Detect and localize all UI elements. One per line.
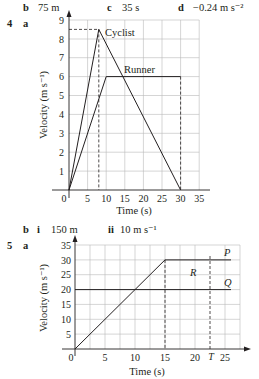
p-label: P [223, 247, 231, 258]
svg-text:T: T [208, 351, 215, 362]
chart2-dashed-lines [165, 256, 210, 349]
svg-text:25: 25 [61, 269, 71, 280]
q-label: Q [224, 277, 232, 288]
svg-text:10: 10 [130, 352, 140, 363]
chart2-x-arrow-icon [244, 347, 251, 352]
svg-text:25: 25 [220, 352, 230, 363]
svg-text:5: 5 [66, 329, 71, 340]
svg-text:20: 20 [190, 352, 200, 363]
chart2-y-arrow-icon [73, 235, 78, 242]
svg-text:5: 5 [103, 352, 108, 363]
chart-p-q: 35 30 25 20 15 10 5 0 5 10 15 20 25 T Ti… [0, 0, 259, 379]
svg-text:0: 0 [69, 352, 74, 363]
chart2-axes [62, 240, 244, 356]
chart2-grid [75, 245, 240, 349]
chart2-y-ticks: 35 30 25 20 15 10 5 [61, 240, 71, 340]
svg-text:20: 20 [61, 284, 71, 295]
svg-text:35: 35 [61, 240, 71, 251]
chart2-y-label: Velocity (m s⁻¹) [38, 263, 50, 332]
svg-text:10: 10 [61, 314, 71, 325]
svg-text:15: 15 [61, 299, 71, 310]
chart2-x-ticks: 0 5 10 15 20 25 T [69, 351, 231, 363]
svg-text:30: 30 [61, 255, 71, 266]
svg-text:15: 15 [160, 352, 170, 363]
chart2-x-label: Time (s) [129, 366, 165, 378]
r-label: R [189, 267, 197, 278]
